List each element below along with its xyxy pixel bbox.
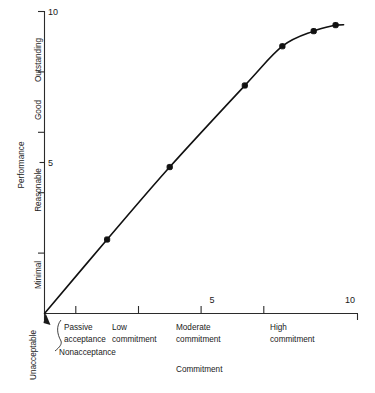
performance-commitment-chart: 10 5 Outstanding Good Reasonable Minimal… <box>0 0 375 393</box>
axes-group <box>45 11 359 314</box>
x-label-low-line2: commitment <box>112 335 157 344</box>
series-line <box>45 25 344 314</box>
y-category-labels: Outstanding Good Reasonable Minimal Unac… <box>29 37 43 380</box>
x-label-moderate-line1: Moderate <box>176 323 211 332</box>
nonacceptance-indicator <box>44 313 62 351</box>
x-tick-label-10: 10 <box>345 295 355 305</box>
x-label-passive-line2: acceptance <box>64 335 106 344</box>
data-point-marker <box>242 83 247 88</box>
x-label-high-line1: High <box>270 323 287 332</box>
x-category-labels: Nonacceptance Passive acceptance Low com… <box>59 323 315 357</box>
x-label-high-line2: commitment <box>270 335 315 344</box>
nonacceptance-brace <box>58 320 61 341</box>
x-axis-title: Commitment <box>176 365 223 374</box>
chart-svg: 10 5 Outstanding Good Reasonable Minimal… <box>0 0 375 393</box>
data-point-marker <box>280 44 285 49</box>
data-point-marker <box>333 22 338 27</box>
x-label-moderate-line2: commitment <box>176 335 221 344</box>
x-label-passive-line1: Passive <box>64 323 93 332</box>
y-tick-label-10: 10 <box>48 7 58 17</box>
x-tick-label-5: 5 <box>209 295 214 305</box>
data-series-layer <box>45 22 344 313</box>
data-point-marker <box>167 164 172 169</box>
y-label-unacceptable: Unacceptable <box>29 330 38 381</box>
x-label-nonacceptance: Nonacceptance <box>59 348 116 357</box>
y-axis-title: Performance <box>17 141 26 188</box>
y-label-outstanding: Outstanding <box>34 37 43 82</box>
data-point-marker <box>311 29 316 34</box>
y-label-reasonable: Reasonable <box>34 168 43 212</box>
y-tick-label-5: 5 <box>48 158 53 168</box>
y-label-good: Good <box>34 100 43 120</box>
data-point-marker <box>105 237 110 242</box>
y-label-minimal: Minimal <box>34 261 43 289</box>
x-label-low-line1: Low <box>112 323 127 332</box>
